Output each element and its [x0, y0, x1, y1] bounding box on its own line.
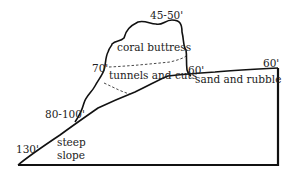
label-depth-80-100: 80-100' — [45, 108, 85, 120]
label-slope: slope — [57, 149, 85, 161]
label-sand-rubble: sand and rubble — [195, 73, 281, 85]
dashed-line-lower — [104, 83, 130, 94]
reef-profile-diagram: 45-50' coral buttress 70' tunnels and cu… — [0, 0, 293, 175]
label-coral-buttress: coral buttress — [117, 41, 191, 53]
label-depth-70: 70' — [92, 62, 108, 74]
label-steep: steep — [57, 136, 86, 148]
dashed-line-upper — [109, 56, 186, 67]
label-depth-60-right: 60' — [263, 57, 279, 69]
label-depth-130: 130' — [16, 143, 39, 155]
label-tunnels: tunnels and cuts — [109, 69, 197, 81]
label-top-depth: 45-50' — [150, 9, 183, 21]
